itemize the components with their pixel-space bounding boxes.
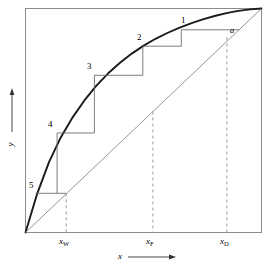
tick-label-xw-sub: W xyxy=(63,240,69,247)
tick-label-xd-sub: D xyxy=(224,240,229,247)
stage-label-5: 5 xyxy=(29,181,34,190)
stage-label-2: 2 xyxy=(137,33,142,42)
operating-line xyxy=(26,9,262,233)
stage-steps xyxy=(36,30,239,194)
y-axis-label: y xyxy=(6,143,15,147)
tick-label-xf-sub: F xyxy=(150,240,154,247)
stage-label-1: 1 xyxy=(181,16,186,25)
stage-label-3: 3 xyxy=(87,62,92,71)
tick-label-xf: xF xyxy=(146,237,154,246)
mccabe-thiele-figure: 1 2 3 4 5 a xW xF xD x y xyxy=(0,0,276,269)
alpha-annotation: a xyxy=(230,26,234,35)
x-axis-arrow xyxy=(128,255,176,260)
x-axis-label: x xyxy=(118,252,122,261)
tick-label-xd: xD xyxy=(220,237,229,246)
tick-label-xw: xW xyxy=(59,237,69,246)
y-axis-arrow xyxy=(10,88,15,132)
stage-label-4: 4 xyxy=(48,120,53,129)
